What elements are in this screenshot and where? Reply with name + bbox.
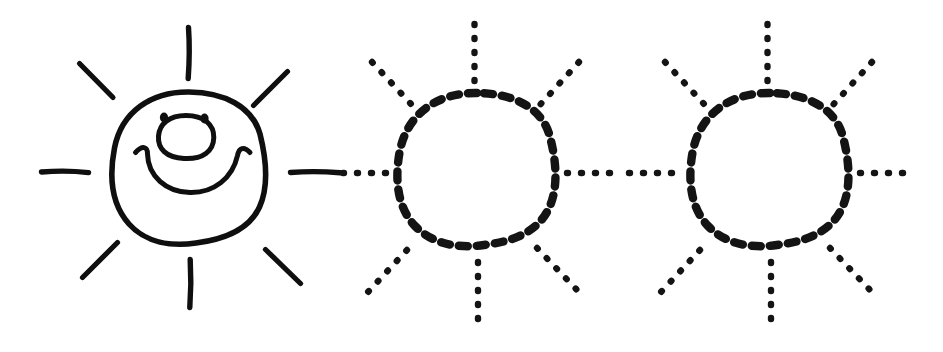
sun-solid-figure [42,28,341,308]
sun-dotted-1-rays [343,24,620,320]
ray-bottom-left-icon [661,250,700,292]
sun-dotted-1-figure [343,24,620,320]
ray-top-right-icon [539,62,579,106]
ray-bottom-right-icon [266,250,301,284]
ray-top-left-icon [372,62,411,104]
sun-dotted-2-rays [629,24,913,320]
tracing-worksheet-canvas [0,0,943,352]
ray-top-left-icon [665,62,704,104]
ray-bottom-right-icon [537,248,577,290]
sun-dotted-2-outline [690,93,848,246]
sun-dotted-1-outline [397,93,555,246]
ray-left-icon [42,171,89,172]
ray-top-right-icon [254,72,288,106]
sun-dotted-2-figure [629,24,913,320]
ray-top-right-icon [832,62,872,106]
ray-right-icon [291,172,341,173]
sun-face-smile [136,148,251,193]
worksheet-artwork [0,0,943,352]
ray-bottom-icon [190,260,191,308]
sun-solid-rays [42,28,341,308]
ray-bottom-left-icon [368,250,407,292]
sun-face-nose [158,116,213,159]
ray-top-left-icon [80,64,114,98]
ray-top-icon [188,28,189,79]
ray-bottom-left-icon [83,243,118,278]
ray-bottom-right-icon [830,248,870,290]
